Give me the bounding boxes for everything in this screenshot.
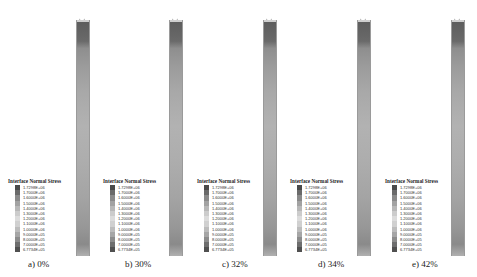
legend-color-bar [204,185,209,252]
panel-a: Interface Normal Stress 1.7298E+061.7000… [0,0,95,277]
legend-color-bar [110,185,115,252]
legend-swatch [204,247,209,252]
legend-title: Interface Normal Stress [103,178,181,184]
panel-caption: d) 34% [318,259,344,269]
legend-title: Interface Normal Stress [197,178,275,184]
legend: Interface Normal Stress 1.7298E+061.7000… [8,178,86,252]
legend-swatch [15,247,20,252]
legend-swatch [392,247,397,252]
legend-value: 6.7734E+05 [305,247,327,252]
legend-value: 6.7734E+05 [118,247,140,252]
legend-value: 6.7734E+05 [212,247,234,252]
panel-caption: c) 32% [222,259,248,269]
legend-color-bar [297,185,302,252]
panel-b: Interface Normal Stress 1.7298E+061.7000… [94,0,189,277]
panel-caption: b) 30% [125,259,151,269]
legend-value: 6.7734E+05 [23,247,45,252]
legend-swatch [110,247,115,252]
legend-color-bar [15,185,20,252]
legend-values: 1.7298E+061.7000E+061.6000E+061.5000E+06… [212,185,234,252]
legend: Interface Normal Stress 1.7298E+061.7000… [290,178,368,252]
panel-c: Interface Normal Stress 1.7298E+061.7000… [188,0,283,277]
legend-values: 1.7298E+061.7000E+061.6000E+061.5000E+06… [118,185,140,252]
panel-d: Interface Normal Stress 1.7298E+061.7000… [282,0,377,277]
legend: Interface Normal Stress 1.7298E+061.7000… [385,178,463,252]
legend-title: Interface Normal Stress [8,178,86,184]
panel-e: Interface Normal Stress 1.7298E+061.7000… [376,0,471,277]
legend: Interface Normal Stress 1.7298E+061.7000… [103,178,181,252]
panel-caption: a) 0% [28,259,49,269]
legend-value: 6.7734E+05 [400,247,422,252]
legend-values: 1.7298E+061.7000E+061.6000E+061.5000E+06… [305,185,327,252]
panel-caption: e) 42% [412,259,438,269]
legend-color-bar [392,185,397,252]
legend-title: Interface Normal Stress [385,178,463,184]
legend-values: 1.7298E+061.7000E+061.6000E+061.5000E+06… [23,185,45,252]
legend: Interface Normal Stress 1.7298E+061.7000… [197,178,275,252]
legend-swatch [297,247,302,252]
legend-values: 1.7298E+061.7000E+061.6000E+061.5000E+06… [400,185,422,252]
legend-title: Interface Normal Stress [290,178,368,184]
